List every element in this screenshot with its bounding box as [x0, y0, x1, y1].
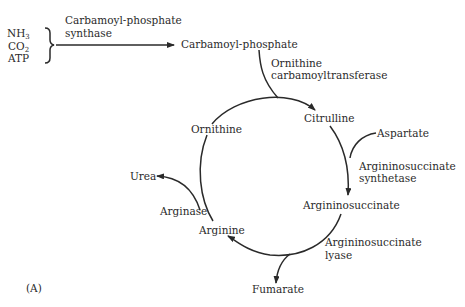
enzyme-cps-line2: synthase — [65, 27, 112, 39]
node-argininosuccinate: Argininosuccinate — [303, 199, 400, 211]
aspartate-arrow — [350, 133, 376, 158]
panel-label: (A) — [26, 282, 42, 294]
node-carbamoyl-phosphate: Carbamoyl-phosphate — [181, 38, 298, 50]
enzyme-cps-line1: Carbamoyl-phosphate — [65, 14, 182, 26]
fumarate-arrow — [276, 254, 290, 283]
enzyme-otc-line2: carbamoyltransferase — [271, 69, 387, 81]
enzyme-asl-line2: lyase — [325, 249, 352, 261]
input-atp: ATP — [8, 52, 29, 64]
node-aspartate: Aspartate — [377, 127, 429, 139]
enzyme-asl-line1: Argininosuccinate — [325, 236, 422, 248]
node-ornithine: Ornithine — [191, 123, 242, 135]
ass-arrow — [330, 126, 348, 195]
node-arginine: Arginine — [199, 224, 245, 236]
node-urea: Urea — [130, 170, 156, 182]
input-co2: CO2 — [8, 40, 29, 52]
urea-cycle-diagram: NH3 CO2 ATP Carbamoyl-phosphate synthase… — [0, 0, 465, 307]
node-fumarate: Fumarate — [252, 283, 304, 295]
enzyme-ass-line2: synthetase — [359, 172, 416, 184]
otc-arrow — [212, 97, 315, 124]
input-nh3: NH3 — [7, 27, 30, 39]
input-brace — [45, 28, 54, 63]
node-citrulline: Citrulline — [304, 112, 354, 124]
enzyme-ass-line1: Argininosuccinate — [359, 160, 456, 172]
enzyme-otc-line1: Ornithine — [271, 57, 322, 69]
enzyme-arginase: Arginase — [160, 205, 207, 217]
